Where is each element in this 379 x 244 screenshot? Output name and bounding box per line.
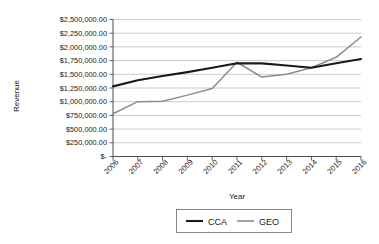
revenue-line-chart: $-$250,000.00$500,000.00$750,000.00$1,00… (0, 0, 379, 244)
y-tick-label: $- (100, 152, 107, 161)
x-tick-label: 2015 (325, 158, 343, 176)
x-tick-label: 2011 (226, 158, 244, 176)
y-tick-label: $2,000,000.00 (60, 43, 107, 52)
chart-canvas: $-$250,000.00$500,000.00$750,000.00$1,00… (0, 0, 379, 244)
x-axis-title: Year (229, 192, 246, 201)
series-line-geo (113, 37, 361, 114)
legend-label-geo: GEO (259, 217, 279, 227)
y-tick-label: $1,000,000.00 (60, 97, 107, 106)
y-tick-label: $2,500,000.00 (60, 15, 107, 24)
y-tick-label: $1,250,000.00 (60, 84, 107, 93)
x-tick-label: 2012 (251, 158, 269, 176)
x-tick-labels-group: 2006200720082009201020112012201320142015… (102, 158, 368, 176)
y-tick-label: $1,500,000.00 (60, 70, 107, 79)
legend-label-cca: CCA (208, 217, 227, 227)
y-tick-marks-group (110, 20, 114, 157)
y-tick-label: $250,000.00 (66, 138, 107, 147)
y-tick-label: $500,000.00 (66, 125, 107, 134)
x-tick-label: 2007 (127, 158, 145, 176)
y-tick-label: $750,000.00 (66, 111, 107, 120)
y-axis-title: Revenue (12, 79, 21, 112)
y-tick-labels-group: $-$250,000.00$500,000.00$750,000.00$1,00… (60, 15, 108, 161)
gridlines-group (113, 20, 361, 143)
x-tick-label: 2013 (276, 158, 294, 176)
y-tick-label: $2,250,000.00 (60, 29, 107, 38)
x-tick-label: 2016 (350, 158, 368, 176)
x-tick-label: 2010 (201, 158, 219, 176)
y-tick-label: $1,750,000.00 (60, 56, 107, 65)
x-tick-label: 2009 (176, 158, 194, 176)
x-tick-label: 2014 (300, 158, 318, 176)
x-tick-label: 2008 (152, 158, 170, 176)
